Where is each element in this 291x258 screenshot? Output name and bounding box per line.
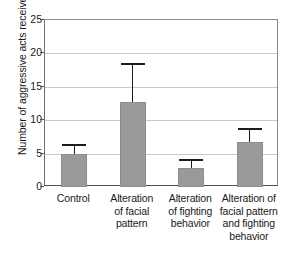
y-axis-tick-label: 25 — [12, 14, 42, 24]
error-bar-stem — [132, 63, 133, 102]
error-bar-stem — [249, 128, 250, 142]
error-bar-cap — [238, 128, 262, 130]
error-bar-cap — [179, 159, 203, 161]
x-axis-category-label-line: behavior — [216, 230, 283, 243]
x-axis-category-label-line: of fighting — [157, 205, 224, 218]
x-axis-category-label-line: Alteration — [99, 192, 166, 205]
gridline — [45, 53, 277, 54]
x-axis-category-label-line: Alteration of — [216, 192, 283, 205]
x-axis-category-label-line: pattern — [99, 217, 166, 230]
y-axis-tick-label: 15 — [12, 81, 42, 91]
bar — [237, 142, 263, 187]
error-bar-cap — [121, 63, 145, 65]
error-bar-cap — [62, 144, 86, 146]
y-axis-tick-mark — [40, 186, 44, 187]
x-axis-category-label-line: facial pattern — [216, 205, 283, 218]
gridline — [45, 120, 277, 121]
y-axis-tick-label: 20 — [12, 47, 42, 57]
bar-chart-figure: Number of aggressive acts received 05101… — [0, 0, 291, 258]
x-axis-category-label: Alterationof facialpattern — [99, 192, 166, 230]
x-axis-category-label-line: of facial — [99, 205, 166, 218]
y-axis-tick-label: 5 — [12, 148, 42, 158]
bar — [120, 102, 146, 187]
x-axis-category-label-line: Alteration — [157, 192, 224, 205]
y-axis-tick-label: 0 — [12, 181, 42, 191]
x-axis-category-label: Alteration offacial patternand fightingb… — [216, 192, 283, 242]
x-axis-category-label-line: and fighting — [216, 217, 283, 230]
y-axis-tick-label: 10 — [12, 114, 42, 124]
x-axis-category-label: Alterationof fightingbehavior — [157, 192, 224, 230]
plot-area — [44, 19, 278, 186]
bar — [61, 154, 87, 187]
x-axis-category-label-line: behavior — [157, 217, 224, 230]
gridline — [45, 87, 277, 88]
bar — [178, 168, 204, 187]
x-axis-category-label-line: Control — [40, 192, 107, 205]
x-axis-category-label: Control — [40, 192, 107, 205]
